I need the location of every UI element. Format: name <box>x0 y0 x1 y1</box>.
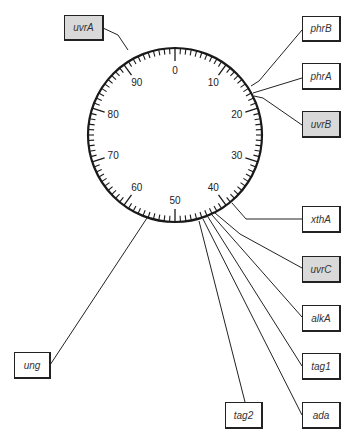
minor-tick <box>230 194 234 198</box>
dial-label-10: 10 <box>208 77 220 88</box>
minor-tick <box>214 206 217 211</box>
dial-label-90: 90 <box>131 77 143 88</box>
minor-tick <box>153 213 154 219</box>
minor-tick <box>115 194 119 198</box>
minor-tick <box>234 190 238 194</box>
minor-tick <box>99 93 104 96</box>
minor-tick <box>96 98 101 101</box>
minor-tick <box>138 56 141 61</box>
gene-label: xthA <box>311 214 331 225</box>
gene-label: uvrA <box>73 22 94 33</box>
minor-tick <box>120 68 124 73</box>
minor-tick <box>185 49 186 55</box>
minor-tick <box>133 206 136 211</box>
gene-box-uvrB: uvrB <box>302 111 341 138</box>
gene-label: alkA <box>311 313 330 324</box>
minor-tick <box>164 215 165 221</box>
minor-tick <box>243 88 248 91</box>
gene-label: ada <box>313 410 330 421</box>
dial-label-40: 40 <box>208 182 220 193</box>
minor-tick <box>108 80 113 84</box>
minor-tick <box>241 84 246 88</box>
minor-tick <box>105 84 110 88</box>
gene-label: uvrC <box>310 264 331 275</box>
minor-tick <box>246 174 251 177</box>
minor-tick <box>209 56 212 61</box>
minor-tick <box>96 169 101 172</box>
leader-line-ung <box>50 218 147 365</box>
minor-tick <box>89 145 95 146</box>
minor-tick <box>91 113 97 114</box>
minor-tick <box>227 68 231 73</box>
leader-line-alkA <box>212 215 302 317</box>
minor-tick <box>205 210 207 216</box>
minor-tick <box>102 88 107 91</box>
minor-tick <box>91 155 97 156</box>
gene-label: phrB <box>310 23 331 34</box>
gene-box-ada: ada <box>302 402 341 429</box>
minor-tick <box>243 178 248 181</box>
dial-labels: 0102030405060708090 <box>108 65 243 206</box>
minor-tick <box>195 51 196 57</box>
gene-label: tag1 <box>311 361 330 372</box>
minor-tick <box>143 54 145 60</box>
minor-tick <box>128 62 131 67</box>
minor-tick <box>255 145 261 146</box>
major-tick <box>124 195 132 206</box>
minor-tick <box>205 54 207 60</box>
minor-tick <box>227 197 231 202</box>
minor-tick <box>105 183 110 187</box>
minor-tick <box>143 210 145 216</box>
minor-tick <box>253 113 259 114</box>
minor-tick <box>241 183 246 187</box>
major-tick <box>92 108 104 112</box>
minor-tick <box>102 178 107 181</box>
minor-tick <box>108 187 113 191</box>
leader-line-ada <box>203 219 302 415</box>
minor-tick <box>133 59 136 64</box>
minor-tick <box>94 103 100 105</box>
leader-line-xthA <box>232 203 302 219</box>
minor-tick <box>112 75 116 79</box>
dial-label-80: 80 <box>108 109 120 120</box>
minor-tick <box>94 165 100 167</box>
gene-box-tag1: tag1 <box>302 353 341 380</box>
gene-box-uvrC: uvrC <box>302 256 341 283</box>
minor-tick <box>214 59 217 64</box>
minor-tick <box>253 155 259 156</box>
dial-label-50: 50 <box>169 195 181 206</box>
gene-box-xthA: xthA <box>302 206 341 233</box>
minor-tick <box>218 203 221 208</box>
minor-tick <box>246 93 251 96</box>
minor-tick <box>237 80 242 84</box>
leader-line-tag1 <box>208 217 302 366</box>
minor-tick <box>89 124 95 125</box>
minor-tick <box>164 49 165 55</box>
minor-tick <box>234 75 238 79</box>
minor-tick <box>128 203 131 208</box>
gene-box-tag2: tag2 <box>225 402 263 429</box>
minor-tick <box>99 174 104 177</box>
gene-box-phrB: phrB <box>302 16 341 42</box>
major-tick <box>124 65 132 76</box>
minor-tick <box>195 213 196 219</box>
gene-box-ung: ung <box>14 352 51 379</box>
leader-line-uvrA <box>103 28 128 50</box>
major-tick <box>92 158 104 162</box>
minor-tick <box>237 187 242 191</box>
gene-label: tag2 <box>234 410 253 421</box>
minor-tick <box>115 72 119 76</box>
leader-line-phrB <box>251 30 302 86</box>
leader-line-tag2 <box>199 221 245 402</box>
major-tick <box>245 158 257 162</box>
minor-tick <box>112 190 116 194</box>
minor-tick <box>138 208 141 213</box>
major-tick <box>245 108 257 112</box>
gene-box-alkA: alkA <box>302 305 341 332</box>
dial-label-30: 30 <box>231 150 243 161</box>
minor-tick <box>248 169 253 172</box>
gene-label: phrA <box>310 71 331 82</box>
minor-tick <box>185 215 186 221</box>
gene-label: ung <box>24 360 41 371</box>
dial-label-60: 60 <box>131 182 143 193</box>
